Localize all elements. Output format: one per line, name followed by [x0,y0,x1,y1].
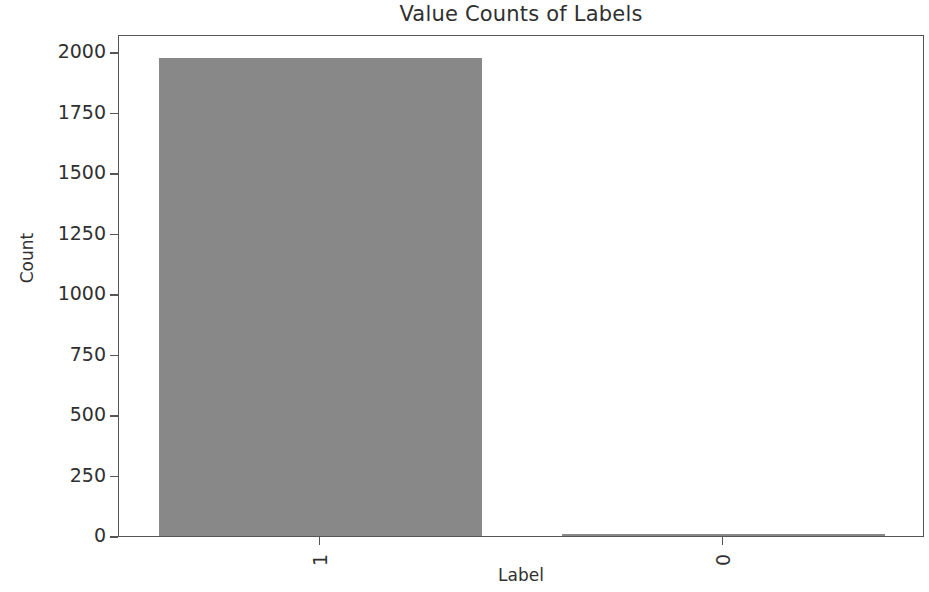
y-tick-label: 2000 [58,40,106,62]
chart-title: Value Counts of Labels [118,2,924,26]
plot-area [118,35,924,537]
y-tick-mark [110,536,118,538]
y-tick-label: 1250 [58,222,106,244]
y-tick-label: 750 [70,343,106,365]
bars-layer [119,36,923,536]
y-tick-mark [110,52,118,54]
x-axis-label: Label [118,565,924,585]
y-tick-label: 0 [94,524,106,546]
bar [562,534,884,536]
bar [159,58,481,536]
y-tick-mark [110,113,118,115]
y-tick-mark [110,476,118,478]
y-tick-label: 250 [70,464,106,486]
bar-chart-figure: Value Counts of Labels Count 02505007501… [0,0,929,592]
y-tick-label: 1750 [58,101,106,123]
y-tick-label: 1000 [58,282,106,304]
y-tick-label: 1500 [58,161,106,183]
y-tick-mark [110,173,118,175]
y-axis-ticks: 025050075010001250150017502000 [0,35,118,537]
y-tick-mark [110,294,118,296]
y-tick-mark [110,355,118,357]
y-tick-mark [110,234,118,236]
y-tick-label: 500 [70,403,106,425]
y-tick-mark [110,415,118,417]
